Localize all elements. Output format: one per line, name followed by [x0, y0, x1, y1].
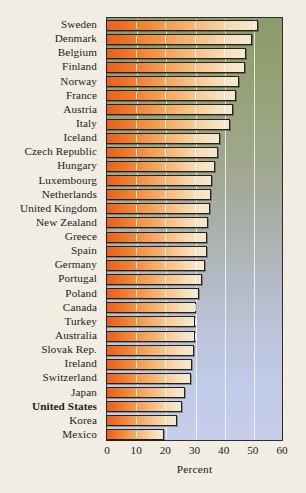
- bar-gridline-tick: [224, 78, 225, 85]
- bar-gridline-tick: [136, 318, 137, 325]
- bar-gridline-tick: [195, 78, 196, 85]
- bar[interactable]: [106, 401, 182, 412]
- bar-gridline-tick: [165, 50, 166, 57]
- bar-gridline-tick: [136, 36, 137, 43]
- bar[interactable]: [106, 133, 220, 144]
- bar[interactable]: [106, 316, 195, 327]
- bar-gridline-tick: [136, 149, 137, 156]
- bar-gridline-tick: [224, 50, 225, 57]
- bar-gridline-tick: [195, 191, 196, 198]
- bar-gridline-tick: [224, 22, 225, 29]
- bar-gridline-tick: [224, 92, 225, 99]
- bar[interactable]: [106, 62, 245, 73]
- bar-gridline-tick: [165, 417, 166, 424]
- bar-gridline-tick: [165, 347, 166, 354]
- bar[interactable]: [106, 119, 230, 130]
- bar-gridline-tick: [136, 234, 137, 241]
- bar[interactable]: [106, 217, 208, 228]
- bar-chart: [106, 17, 283, 441]
- bar-gridline-tick: [165, 78, 166, 85]
- bar[interactable]: [106, 104, 233, 115]
- category-label-column: SwedenDenmarkBelgiumFinlandNorwayFranceA…: [0, 17, 101, 441]
- bar-gridline-tick: [136, 106, 137, 113]
- bar[interactable]: [106, 161, 215, 172]
- bar-gridline-tick: [165, 262, 166, 269]
- category-label: United States: [0, 401, 97, 412]
- category-label: Spain: [0, 245, 97, 256]
- category-label: Ireland: [0, 358, 97, 369]
- bar-gridline-tick: [136, 276, 137, 283]
- bar-gridline-tick: [224, 36, 225, 43]
- bar-gridline-tick: [136, 92, 137, 99]
- bar[interactable]: [106, 260, 205, 271]
- x-axis-tick-labels: 0102030405060: [106, 444, 283, 460]
- bar-gridline-tick: [136, 333, 137, 340]
- category-label: Switzerland: [0, 372, 97, 383]
- category-label: Sweden: [0, 19, 97, 30]
- bar[interactable]: [106, 48, 246, 59]
- bar-gridline-tick: [165, 121, 166, 128]
- bar-gridline-tick: [136, 403, 137, 410]
- bar[interactable]: [106, 387, 185, 398]
- category-label: Hungary: [0, 160, 97, 171]
- bar[interactable]: [106, 359, 192, 370]
- category-label: France: [0, 90, 97, 101]
- bar-gridline-tick: [165, 135, 166, 142]
- bar[interactable]: [106, 189, 211, 200]
- bar-gridline-tick: [195, 64, 196, 71]
- bar[interactable]: [106, 331, 195, 342]
- category-label: Austria: [0, 104, 97, 115]
- category-label: Canada: [0, 302, 97, 313]
- bar[interactable]: [106, 302, 196, 313]
- bar-gridline-tick: [224, 106, 225, 113]
- bar-gridline-tick: [165, 149, 166, 156]
- bar[interactable]: [106, 246, 207, 257]
- x-tick-label: 10: [131, 444, 142, 457]
- bar-gridline-tick: [195, 248, 196, 255]
- bar-gridline-tick: [136, 347, 137, 354]
- bar[interactable]: [106, 203, 210, 214]
- bar[interactable]: [106, 232, 207, 243]
- bar-gridline-tick: [195, 333, 196, 340]
- bar[interactable]: [106, 345, 194, 356]
- bar[interactable]: [106, 147, 218, 158]
- bar-gridline-tick: [136, 177, 137, 184]
- bar-gridline-tick: [195, 22, 196, 29]
- bar[interactable]: [106, 90, 236, 101]
- bar[interactable]: [106, 175, 212, 186]
- bar[interactable]: [106, 288, 199, 299]
- bar[interactable]: [106, 429, 164, 440]
- bar[interactable]: [106, 34, 252, 45]
- bar-gridline-tick: [195, 205, 196, 212]
- bar[interactable]: [106, 76, 239, 87]
- bar-gridline-tick: [195, 318, 196, 325]
- category-label: Belgium: [0, 47, 97, 58]
- category-label: Luxembourg: [0, 175, 97, 186]
- bar[interactable]: [106, 20, 258, 31]
- category-label: Korea: [0, 415, 97, 426]
- bar-gridline-tick: [195, 121, 196, 128]
- x-tick-label: 20: [160, 444, 171, 457]
- bar-gridline-tick: [136, 304, 137, 311]
- category-label: Australia: [0, 330, 97, 341]
- bar[interactable]: [106, 274, 202, 285]
- category-label: Norway: [0, 76, 97, 87]
- category-label: Finland: [0, 61, 97, 72]
- bar[interactable]: [106, 373, 191, 384]
- bar-gridline-tick: [165, 106, 166, 113]
- category-label: United Kingdom: [0, 203, 97, 214]
- category-label: Denmark: [0, 33, 97, 44]
- bar-gridline-tick: [136, 78, 137, 85]
- category-label: Portugal: [0, 273, 97, 284]
- bar-gridline-tick: [224, 64, 225, 71]
- bar-gridline-tick: [136, 135, 137, 142]
- bar-gridline-tick: [136, 375, 137, 382]
- x-tick-label: 50: [247, 444, 258, 457]
- bar[interactable]: [106, 415, 177, 426]
- bar-gridline-tick: [136, 361, 137, 368]
- category-label: Slovak Rep.: [0, 344, 97, 355]
- category-label: Netherlands: [0, 189, 97, 200]
- bar-gridline-tick: [136, 389, 137, 396]
- bar-gridline-tick: [136, 163, 137, 170]
- bar-gridline-tick: [136, 22, 137, 29]
